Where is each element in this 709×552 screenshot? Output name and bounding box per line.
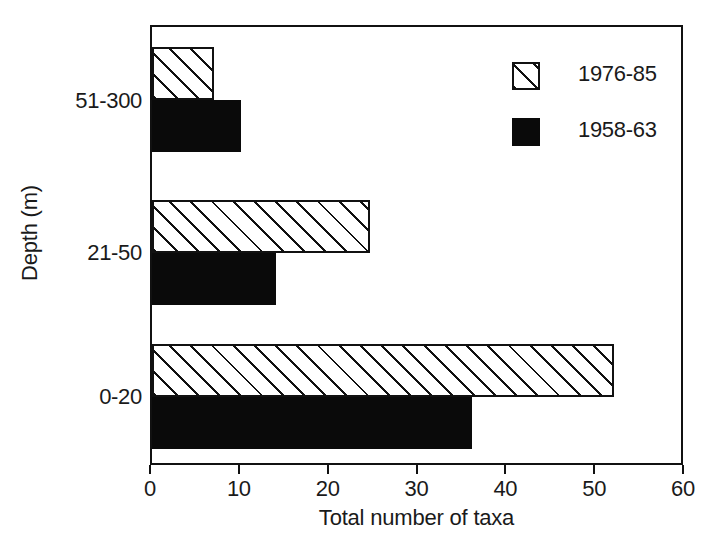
bar-1976-85-0-20 [152,344,614,397]
bar-1976-85-51-300 [152,47,214,100]
legend-label: 1958-63 [578,117,657,143]
x-axis-tick [504,465,506,474]
x-axis-tick-label: 50 [564,476,624,502]
x-axis-tick-label: 40 [475,476,535,502]
x-axis-title: Total number of taxa [150,505,683,531]
y-axis-tick-label: 51-300 [12,88,142,114]
solid-swatch-icon [512,118,540,146]
legend-label: 1976-85 [578,61,657,87]
x-axis-tick [238,465,240,474]
bar-1958-63-0-20 [152,397,472,449]
x-axis-tick-label: 60 [653,476,709,502]
bar-1976-85-21-50 [152,200,370,253]
x-axis-tick-label: 0 [120,476,180,502]
bar-1958-63-21-50 [152,253,276,305]
bar-chart: Depth (m) 51-300 21-50 0-20 1976-85 1958… [0,0,709,552]
x-axis-tick-label: 30 [387,476,447,502]
y-axis-title: Depth (m) [17,133,43,333]
plot-area: 1976-85 1958-63 [150,25,683,465]
x-axis-tick-label: 20 [298,476,358,502]
bar-1958-63-51-300 [152,100,241,152]
y-axis-tick-label: 0-20 [12,384,142,410]
x-axis-tick [416,465,418,474]
y-axis-tick-label: 21-50 [12,240,142,266]
x-axis-tick [682,465,684,474]
hatched-swatch-icon [512,62,540,90]
x-axis-tick-label: 10 [209,476,269,502]
x-axis-tick [327,465,329,474]
x-axis-tick [149,465,151,474]
x-axis-tick [593,465,595,474]
